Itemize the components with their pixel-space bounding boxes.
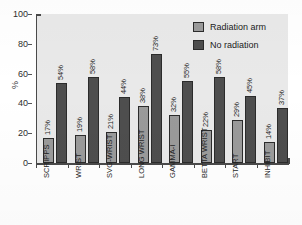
bar-value-label: 38% (139, 89, 147, 104)
legend-item: Radiation arm (193, 19, 289, 35)
bar-no-radiation (277, 108, 288, 163)
bar-value-label: 22% (202, 113, 210, 128)
bar-value-label: 29% (233, 102, 241, 117)
bar-value-label: 73% (152, 37, 160, 52)
x-axis-tick-mark (68, 163, 69, 168)
bar-no-radiation (88, 77, 99, 163)
x-axis-category-label: INHIBIT (264, 151, 272, 178)
bar-value-label: 21% (107, 114, 115, 129)
legend-item-label: No radiation (210, 40, 259, 50)
bar-no-radiation (56, 83, 67, 163)
bar-no-radiation (214, 77, 225, 163)
bar-group: 17%54% (43, 14, 69, 163)
bar-value-label: 14% (265, 124, 273, 139)
bar-value-label: 58% (215, 59, 223, 74)
x-axis-category-label: GAMMA-I (169, 144, 177, 178)
x-axis-tick-mark (131, 163, 132, 168)
bar-no-radiation (245, 96, 256, 163)
y-axis-tick-label: 80 (18, 40, 28, 49)
x-axis-category-label: BETTA WRIST (201, 127, 209, 178)
bar-value-label: 54% (57, 65, 65, 80)
x-axis-category-label: WRIST (75, 153, 83, 178)
y-axis-tick-mark (28, 163, 32, 164)
x-axis-tick-mark (225, 163, 226, 168)
legend-swatch-icon (193, 22, 204, 32)
y-axis-tick-label: 40 (18, 99, 28, 108)
legend-item-label: Radiation arm (210, 22, 266, 32)
y-axis-tick-mark (28, 133, 32, 134)
bar-value-label: 37% (278, 90, 286, 105)
x-axis-category-label: LONG WRIST (138, 129, 146, 178)
x-axis-tick-mark (194, 163, 195, 168)
y-axis-top-tick (36, 14, 41, 16)
bar-no-radiation (182, 81, 193, 163)
x-axis-tick-mark (257, 163, 258, 168)
y-axis-tick-mark (28, 14, 32, 15)
bar-value-label: 32% (170, 98, 178, 113)
bar-group: 32%55% (169, 14, 195, 163)
y-axis-tick-label: 60 (18, 70, 28, 79)
bar-no-radiation (119, 97, 130, 163)
bar-value-label: 58% (89, 59, 97, 74)
x-axis-right-end-tick (288, 158, 290, 164)
legend-item: No radiation (193, 37, 289, 53)
y-axis-tick-mark (28, 44, 32, 45)
bar-chart-figure: % 020406080100 17%54%19%58%21%44%38%73%3… (0, 0, 302, 225)
legend-swatch-icon (193, 40, 204, 50)
bar-value-label: 19% (76, 117, 84, 132)
y-axis-tick-labels: 020406080100 (0, 10, 32, 168)
bar-group: 19%58% (75, 14, 101, 163)
x-axis-category-label: SCRIPPS (43, 144, 51, 178)
x-axis-category-label: START (232, 154, 240, 178)
x-axis-tick-mark (36, 163, 37, 168)
x-axis-tick-mark (99, 163, 100, 168)
y-axis-tick-label: 20 (18, 129, 28, 138)
bar-no-radiation (151, 54, 162, 163)
x-axis-tick-mark (162, 163, 163, 168)
bar-value-label: 45% (246, 78, 254, 93)
chart-legend: Radiation armNo radiation (193, 19, 289, 55)
bar-value-label: 55% (183, 63, 191, 78)
y-axis-tick-mark (28, 74, 32, 75)
bar-value-label: 17% (44, 120, 52, 135)
bar-value-label: 44% (120, 80, 128, 95)
y-axis-tick-label: 100 (13, 10, 28, 19)
x-axis-category-label: SVG-WRIST (106, 135, 114, 178)
y-axis-tick-mark (28, 103, 32, 104)
